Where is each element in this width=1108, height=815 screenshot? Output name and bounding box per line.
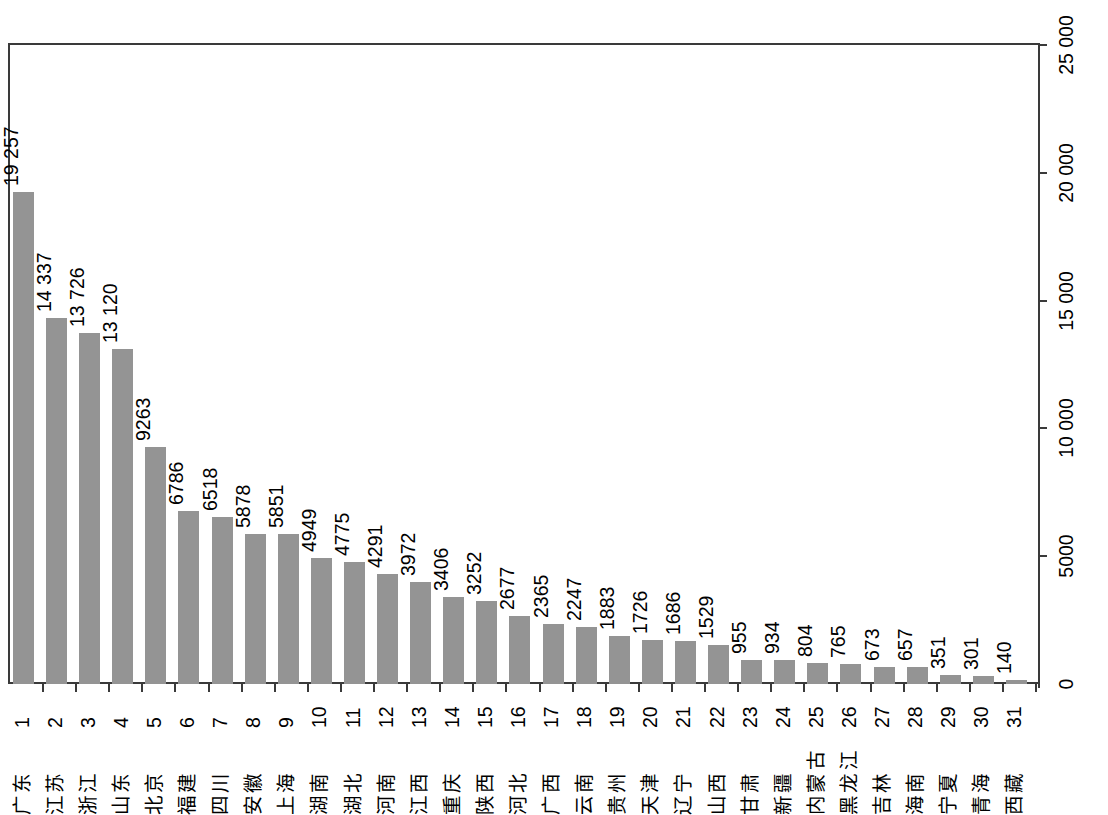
bar-内蒙古[interactable]: 804 bbox=[804, 45, 837, 684]
y-tick-text: 25 000 bbox=[1055, 15, 1078, 75]
x-tick bbox=[406, 684, 408, 692]
x-rank-text: 11 bbox=[342, 708, 365, 728]
bar-海南[interactable]: 657 bbox=[904, 45, 937, 684]
bar-浙江[interactable]: 13 726 bbox=[76, 45, 109, 684]
x-label-西藏: 31西藏 bbox=[1003, 692, 1036, 815]
x-tick bbox=[671, 684, 673, 692]
bar-rect bbox=[112, 349, 133, 684]
x-category-text: 福建 bbox=[171, 770, 200, 815]
bar-河南[interactable]: 4291 bbox=[374, 45, 407, 684]
x-rank-text: 13 bbox=[408, 706, 431, 728]
x-rank-text: 7 bbox=[209, 717, 232, 728]
bar-value-text: 13 726 bbox=[66, 268, 89, 328]
bar-天津[interactable]: 1726 bbox=[639, 45, 672, 684]
x-rank-text: 18 bbox=[573, 706, 596, 728]
bar-rect bbox=[642, 640, 663, 684]
bar-四川[interactable]: 6518 bbox=[209, 45, 242, 684]
bar-新疆[interactable]: 934 bbox=[771, 45, 804, 684]
bar-rect bbox=[509, 616, 530, 684]
x-tick bbox=[42, 684, 44, 692]
x-category-text: 天津 bbox=[634, 770, 663, 815]
x-category-text: 浙江 bbox=[72, 770, 101, 815]
bar-rect bbox=[344, 562, 365, 684]
bar-吉林[interactable]: 673 bbox=[871, 45, 904, 684]
bar-宁夏[interactable]: 351 bbox=[937, 45, 970, 684]
chart-page: 19 25714 33713 72613 1209263678665185878… bbox=[0, 0, 1108, 815]
bar-贵州[interactable]: 1883 bbox=[606, 45, 639, 684]
bar-甘肃[interactable]: 955 bbox=[738, 45, 771, 684]
x-rank-text: 10 bbox=[308, 706, 331, 728]
x-category-text: 北京 bbox=[138, 770, 167, 815]
bar-rect bbox=[543, 624, 564, 684]
bar-青海[interactable]: 301 bbox=[970, 45, 1003, 684]
y-tick-text: 5000 bbox=[1055, 534, 1078, 577]
x-rank-text: 3 bbox=[77, 717, 100, 728]
bar-value-text: 19 257 bbox=[0, 126, 23, 186]
bar-西藏[interactable]: 140 bbox=[1003, 45, 1036, 684]
x-rank-text: 29 bbox=[937, 706, 960, 728]
x-rank-text: 1 bbox=[11, 717, 34, 728]
x-category-text: 陕西 bbox=[469, 770, 498, 815]
bar-山东[interactable]: 13 120 bbox=[109, 45, 142, 684]
x-category-text: 上海 bbox=[270, 770, 299, 815]
x-category-text: 四川 bbox=[204, 770, 233, 815]
x-rank-text: 5 bbox=[143, 717, 166, 728]
bar-value-text: 3406 bbox=[430, 548, 453, 591]
bar-rect bbox=[576, 627, 597, 684]
x-category-text: 山西 bbox=[701, 770, 730, 815]
bar-value-text: 804 bbox=[794, 625, 817, 658]
y-tick bbox=[1038, 172, 1047, 174]
x-axis-labels: 1广东2江苏3浙江4山东5北京6福建7四川8安徽9上海10湖南11湖北12河南1… bbox=[10, 692, 1036, 815]
bar-value-text: 1686 bbox=[662, 592, 685, 635]
bar-rect bbox=[874, 667, 895, 684]
bar-广东[interactable]: 19 257 bbox=[10, 45, 43, 684]
bar-rect bbox=[907, 667, 928, 684]
bar-湖北[interactable]: 4775 bbox=[341, 45, 374, 684]
bar-value-text: 13 120 bbox=[99, 283, 122, 343]
bar-value-text: 955 bbox=[728, 621, 751, 654]
x-rank-text: 20 bbox=[639, 706, 662, 728]
x-tick bbox=[836, 684, 838, 692]
bar-湖南[interactable]: 4949 bbox=[308, 45, 341, 684]
bar-value-text: 5851 bbox=[265, 485, 288, 528]
bar-value-text: 1883 bbox=[596, 586, 619, 629]
bar-江苏[interactable]: 14 337 bbox=[43, 45, 76, 684]
x-rank-text: 9 bbox=[275, 717, 298, 728]
y-tick bbox=[1038, 300, 1047, 302]
x-category-text: 广东 bbox=[6, 770, 35, 815]
bars-layer: 19 25714 33713 72613 1209263678665185878… bbox=[10, 45, 1036, 684]
x-rank-text: 24 bbox=[772, 706, 795, 728]
bar-value-text: 1726 bbox=[629, 591, 652, 634]
x-tick bbox=[704, 684, 706, 692]
bar-rect bbox=[774, 660, 795, 684]
x-tick bbox=[803, 684, 805, 692]
x-category-text: 安徽 bbox=[237, 770, 266, 815]
x-rank-text: 17 bbox=[540, 706, 563, 728]
bar-rect bbox=[311, 558, 332, 684]
x-category-text: 湖北 bbox=[337, 770, 366, 815]
x-category-text: 江西 bbox=[403, 770, 432, 815]
bar-安徽[interactable]: 5878 bbox=[242, 45, 275, 684]
bar-北京[interactable]: 9263 bbox=[142, 45, 175, 684]
bar-黑龙江[interactable]: 765 bbox=[837, 45, 870, 684]
x-rank-text: 31 bbox=[1003, 706, 1026, 728]
x-rank-text: 23 bbox=[739, 706, 762, 728]
x-category-text: 甘肃 bbox=[734, 770, 763, 815]
bar-value-text: 657 bbox=[894, 629, 917, 662]
x-rank-text: 21 bbox=[672, 706, 695, 728]
x-rank-text: 15 bbox=[474, 706, 497, 728]
bar-福建[interactable]: 6786 bbox=[175, 45, 208, 684]
x-rank-text: 30 bbox=[970, 706, 993, 728]
bar-value-text: 4291 bbox=[364, 525, 387, 568]
x-tick bbox=[572, 684, 574, 692]
x-rank-text: 4 bbox=[110, 717, 133, 728]
bar-rect bbox=[377, 574, 398, 684]
bar-辽宁[interactable]: 1686 bbox=[672, 45, 705, 684]
x-category-text: 新疆 bbox=[767, 770, 796, 815]
bar-value-text: 301 bbox=[960, 638, 983, 671]
bar-上海[interactable]: 5851 bbox=[275, 45, 308, 684]
x-category-text: 黑龙江 bbox=[833, 748, 862, 815]
x-tick bbox=[737, 684, 739, 692]
bar-rect bbox=[476, 601, 497, 684]
bar-山西[interactable]: 1529 bbox=[705, 45, 738, 684]
